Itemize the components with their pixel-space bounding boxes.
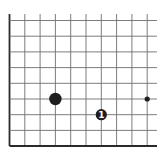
numbered-stone: 1 <box>96 109 107 120</box>
stone-icon <box>49 93 61 105</box>
star-points <box>145 96 150 101</box>
go-board: 1 <box>0 0 165 156</box>
stones: 1 <box>49 93 107 120</box>
black-stone <box>49 93 61 105</box>
star-point-icon <box>145 96 150 101</box>
grid-lines <box>10 14 158 146</box>
move-number-label: 1 <box>98 110 104 120</box>
